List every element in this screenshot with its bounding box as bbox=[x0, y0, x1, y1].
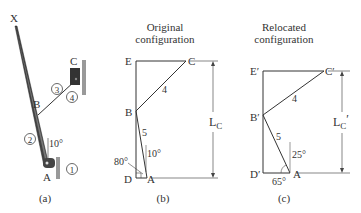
link-ba bbox=[136, 111, 147, 178]
label-e-b: E bbox=[125, 55, 132, 67]
arrowhead-down-c bbox=[340, 168, 344, 173]
link-label-5-c: 5 bbox=[276, 131, 281, 142]
link-label-4-b: 4 bbox=[162, 84, 167, 95]
angle-label-80-b: 80° bbox=[114, 156, 128, 167]
arrowhead-down-b bbox=[211, 173, 215, 178]
label-b-c: B′ bbox=[250, 111, 260, 123]
svg-text:4: 4 bbox=[70, 93, 75, 103]
title-b-line2: configuration bbox=[135, 33, 195, 45]
arrowhead-up-b bbox=[211, 61, 215, 66]
link-ba-prime bbox=[263, 115, 290, 173]
label-x: X bbox=[10, 12, 18, 24]
angle-label-65-c: 65° bbox=[272, 176, 286, 187]
right-angle-d bbox=[136, 173, 141, 178]
caption-a: (a) bbox=[39, 192, 52, 205]
label-b: B bbox=[33, 98, 40, 110]
dimension-label-lc: LC bbox=[209, 115, 222, 131]
link-number-4: 4 bbox=[67, 92, 78, 103]
label-a-b: A bbox=[147, 173, 155, 185]
panel-a: X B C A 10° 3 4 2 1 (a) bbox=[10, 12, 86, 205]
label-c-b: C bbox=[188, 55, 195, 67]
mechanism-diagram: X B C A 10° 3 4 2 1 (a) Original configu… bbox=[0, 0, 361, 213]
link-label-4-c: 4 bbox=[292, 93, 297, 104]
svg-text:1: 1 bbox=[70, 165, 75, 175]
ground-wall-a bbox=[56, 157, 60, 179]
label-c-c: C′ bbox=[325, 65, 335, 77]
label-d-c: D′ bbox=[250, 168, 260, 180]
label-b-b: B bbox=[125, 106, 132, 118]
link-label-5-b: 5 bbox=[142, 127, 147, 138]
title-c-line2: configuration bbox=[254, 33, 314, 45]
pin-a bbox=[46, 162, 49, 165]
label-d-b: D bbox=[124, 173, 132, 185]
title-b-line1: Original bbox=[147, 21, 184, 33]
dimension-label-lc-prime: LC′ bbox=[333, 112, 349, 131]
link-number-1: 1 bbox=[67, 164, 78, 175]
link-number-2: 2 bbox=[25, 134, 36, 145]
label-a: A bbox=[43, 171, 51, 183]
label-c: C bbox=[70, 55, 77, 67]
link-number-3: 3 bbox=[52, 84, 63, 95]
panel-b: Original configuration E C B D A 4 5 10 bbox=[114, 21, 222, 205]
angle-arc-65 bbox=[281, 165, 286, 173]
panel-c: Relocated configuration E′ C′ B′ D′ A 4 … bbox=[250, 21, 350, 205]
caption-c: (c) bbox=[278, 192, 291, 205]
label-e-c: E′ bbox=[250, 65, 259, 77]
pivot-a bbox=[43, 158, 55, 168]
pin-c bbox=[75, 78, 77, 80]
svg-text:2: 2 bbox=[28, 135, 33, 145]
angle-label-25-c: 25° bbox=[292, 149, 306, 160]
svg-text:3: 3 bbox=[55, 85, 60, 95]
ground-wall-c bbox=[82, 60, 86, 95]
link-bc bbox=[136, 61, 186, 111]
caption-b: (b) bbox=[157, 192, 170, 205]
slider-block-c bbox=[70, 68, 80, 85]
title-c-line1: Relocated bbox=[262, 21, 306, 33]
arrowhead-up-c bbox=[340, 71, 344, 76]
angle-label-a: 10° bbox=[49, 138, 63, 149]
angle-label-10-b: 10° bbox=[147, 148, 161, 159]
label-a-c: A bbox=[293, 168, 301, 180]
